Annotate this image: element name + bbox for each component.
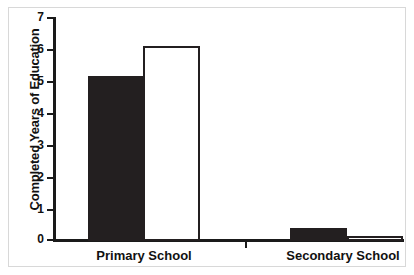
y-axis-title: Completed Years of Education xyxy=(27,12,42,227)
bar-primary-open xyxy=(143,46,200,241)
y-tick-1 xyxy=(47,209,54,211)
plot-area: 7 6 5 4 3 2 1 0 Completed Years of Educa… xyxy=(0,0,414,275)
y-tick-7 xyxy=(47,17,54,19)
bar-chart-figure: 7 6 5 4 3 2 1 0 Completed Years of Educa… xyxy=(0,0,414,275)
y-tick-2 xyxy=(47,177,54,179)
category-label-secondary-school: Secondary School xyxy=(272,248,414,263)
category-label-primary-school: Primary School xyxy=(74,248,214,263)
y-tick-label-0: 0 xyxy=(30,233,44,245)
bar-secondary-filled xyxy=(290,228,347,241)
y-tick-6 xyxy=(47,49,54,51)
y-tick-0 xyxy=(47,239,54,241)
category-separator-tick xyxy=(245,242,247,248)
y-tick-label-0-wrap: 0 xyxy=(26,233,44,245)
y-tick-3 xyxy=(47,145,54,147)
bar-secondary-open xyxy=(347,236,403,241)
bar-primary-filled xyxy=(88,76,143,241)
y-tick-5 xyxy=(47,81,54,83)
y-tick-4 xyxy=(47,113,54,115)
